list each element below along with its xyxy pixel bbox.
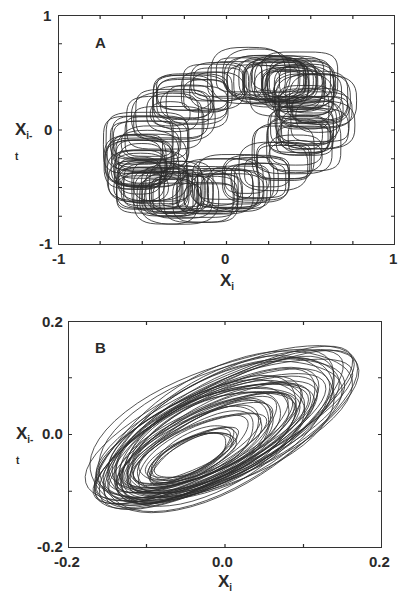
x-axis-label-b: Xi <box>218 572 232 593</box>
x-tick-left-b: -0.2 <box>54 553 80 570</box>
phase-portrait-b <box>0 0 413 601</box>
y-tick-top-b: 0.2 <box>42 313 63 330</box>
x-tick-mid-b: 0.0 <box>212 553 233 570</box>
y-axis-label-b: Xi-t <box>16 424 33 467</box>
y-tick-mid-b: 0.0 <box>42 425 63 442</box>
x-tick-right-b: 0.2 <box>369 553 390 570</box>
panel-label-b: B <box>95 339 106 356</box>
